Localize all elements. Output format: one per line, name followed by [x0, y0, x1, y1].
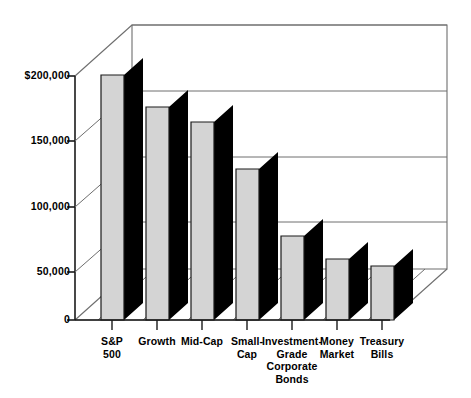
bar-chart-figure: $200,000 150,000 100,000 50,000 0 S&P 50… [0, 0, 471, 398]
y-axis-label-100000: 100,000 [10, 201, 70, 212]
bar-4-front-face [236, 169, 259, 320]
bar-2-front-face [146, 107, 169, 320]
y-axis-label-150000: 150,000 [10, 135, 70, 146]
bar-6-front-face [326, 259, 349, 320]
x-axis [75, 320, 390, 330]
bar-group-2 [146, 90, 188, 320]
bar-group-1 [101, 58, 143, 320]
bar-3-front-face [191, 122, 214, 320]
y-axis-label-50000: 50,000 [10, 266, 70, 277]
depth-edge-top-left [75, 25, 132, 76]
bar-group-4 [236, 152, 278, 320]
x-axis-label-treasury-bills: Treasury Bills [352, 335, 412, 360]
bar-7-front-face [371, 266, 394, 320]
bar-5-front-face [281, 236, 304, 320]
y-axis-label-200000: $200,000 [10, 70, 70, 81]
bar-group-3 [191, 105, 233, 320]
bar-1-front-face [101, 75, 124, 320]
y-axis-label-0: 0 [10, 314, 70, 325]
